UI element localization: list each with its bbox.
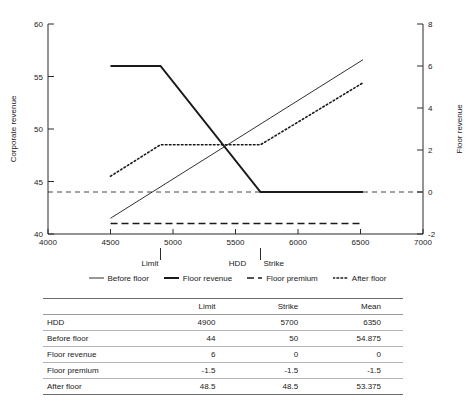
table-cell-value: 48.5: [155, 379, 238, 395]
summary-table-container: LimitStrikeMean HDD490057006350Before fl…: [43, 298, 403, 395]
table-cell-value: -1.5: [237, 363, 320, 379]
table-cell-value: 4900: [155, 315, 238, 331]
figure-root: 40004500500055006000650070004045505560-2…: [0, 0, 475, 408]
x-tick-label: 7000: [414, 238, 432, 247]
table-cell-value: -1.5: [155, 363, 238, 379]
y-tick-label: 50: [34, 125, 43, 134]
legend-swatch-icon: [247, 274, 262, 282]
x-tick-label: 4000: [39, 238, 57, 247]
table-cell-value: 48.5: [237, 379, 320, 395]
table-row: HDD490057006350: [43, 315, 403, 331]
legend-item-before-floor[interactable]: Before floor: [89, 274, 149, 283]
y-tick-label: 45: [34, 178, 43, 187]
y-axis-title: Corporate revenue: [9, 95, 18, 162]
table-col-header-blank: [43, 299, 155, 315]
chart-container: 40004500500055006000650070004045505560-2…: [0, 0, 475, 268]
x-axis-title: HDD: [229, 259, 247, 268]
x-tick-label: 6000: [289, 238, 307, 247]
table-row-label: Before floor: [43, 331, 155, 347]
strike-marker-label: Strike: [264, 259, 285, 268]
chart-legend: Before floorFloor revenueFloor premiumAf…: [0, 268, 475, 288]
table-row-label: Floor revenue: [43, 347, 155, 363]
y-tick-label: 60: [34, 20, 43, 29]
table-cell-value: 5700: [237, 315, 320, 331]
legend-item-floor-premium[interactable]: Floor premium: [247, 274, 318, 283]
summary-table: LimitStrikeMean HDD490057006350Before fl…: [43, 298, 403, 395]
y2-tick-label: 4: [428, 104, 433, 113]
y2-tick-label: 6: [428, 62, 433, 71]
legend-label: After floor: [352, 274, 387, 283]
table-row: After floor48.548.553.375: [43, 379, 403, 395]
table-row-label: HDD: [43, 315, 155, 331]
table-col-header-mean: Mean: [320, 299, 403, 315]
table-row-label: Floor premium: [43, 363, 155, 379]
legend-label: Floor revenue: [183, 274, 232, 283]
table-col-header-strike: Strike: [237, 299, 320, 315]
x-tick-label: 5500: [227, 238, 245, 247]
legend-swatch-icon: [333, 274, 348, 282]
series-floor-revenue: [111, 66, 364, 192]
x-tick-label: 5000: [164, 238, 182, 247]
table-cell-value: 50: [237, 331, 320, 347]
table-row: Before floor445054.875: [43, 331, 403, 347]
table-cell-value: 6350: [320, 315, 403, 331]
table-row-label: After floor: [43, 379, 155, 395]
y-tick-label: 40: [34, 230, 43, 239]
x-tick-label: 6500: [352, 238, 370, 247]
axis-frame-left-bottom: [48, 24, 423, 234]
table-row: Floor premium-1.5-1.5-1.5: [43, 363, 403, 379]
legend-swatch-icon: [89, 274, 104, 282]
legend-label: Floor premium: [266, 274, 318, 283]
table-head: LimitStrikeMean: [43, 299, 403, 315]
table-cell-value: 0: [237, 347, 320, 363]
table-cell-value: 54.875: [320, 331, 403, 347]
table-col-header-limit: Limit: [155, 299, 238, 315]
y2-tick-label: 2: [428, 146, 433, 155]
legend-label: Before floor: [108, 274, 149, 283]
legend-item-after-floor[interactable]: After floor: [333, 274, 387, 283]
y-tick-label: 55: [34, 73, 43, 82]
line-chart: 40004500500055006000650070004045505560-2…: [0, 0, 475, 268]
table-header-row: LimitStrikeMean: [43, 299, 403, 315]
table-cell-value: 53.375: [320, 379, 403, 395]
table-cell-value: 44: [155, 331, 238, 347]
legend-item-floor-revenue[interactable]: Floor revenue: [164, 274, 232, 283]
table-cell-value: -1.5: [320, 363, 403, 379]
legend-swatch-icon: [164, 274, 179, 282]
limit-marker-label: Limit: [142, 259, 160, 268]
y2-tick-label: 8: [428, 20, 433, 29]
series-before-floor: [111, 60, 364, 219]
y2-tick-label: -2: [428, 230, 436, 239]
table-cell-value: 0: [320, 347, 403, 363]
table-row: Floor revenue600: [43, 347, 403, 363]
table-body: HDD490057006350Before floor445054.875Flo…: [43, 315, 403, 395]
x-tick-label: 4500: [102, 238, 120, 247]
table-cell-value: 6: [155, 347, 238, 363]
y2-axis-title: Floor revenue: [455, 104, 464, 154]
y2-tick-label: 0: [428, 188, 433, 197]
